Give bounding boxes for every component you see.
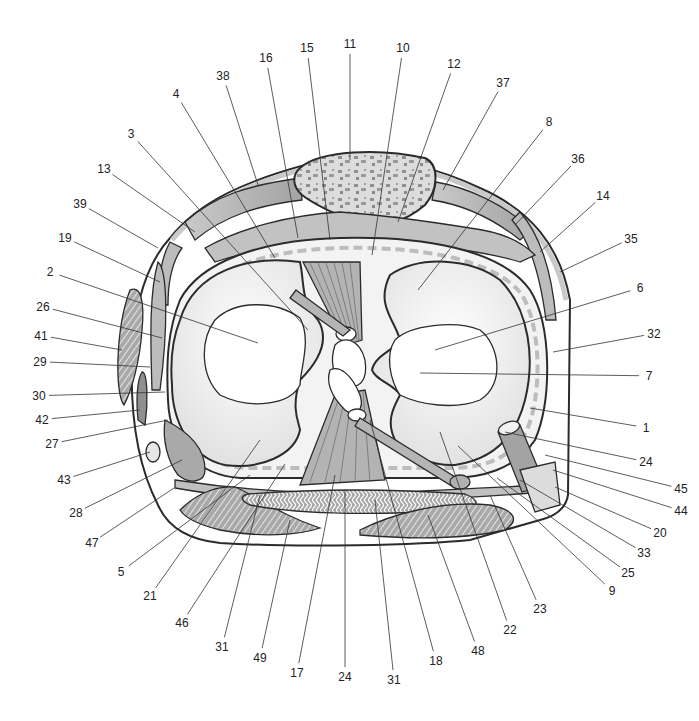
callout-label-11: 11 xyxy=(344,37,357,51)
leader-line-19 xyxy=(74,242,160,282)
leader-line-13 xyxy=(112,174,195,232)
callout-label-20: 20 xyxy=(653,526,667,540)
callout-label-4: 4 xyxy=(173,87,180,101)
callout-label-42: 42 xyxy=(35,413,49,427)
callout-label-9: 9 xyxy=(609,584,616,598)
callout-label-39: 39 xyxy=(73,197,87,211)
callout-label-49: 49 xyxy=(253,651,267,665)
callout-label-2: 2 xyxy=(47,265,54,279)
popliteal-vessel xyxy=(450,475,470,489)
callout-label-7: 7 xyxy=(646,369,653,383)
callout-label-44: 44 xyxy=(674,504,688,518)
leader-line-26 xyxy=(53,309,162,338)
leader-line-44 xyxy=(553,470,672,508)
leader-line-39 xyxy=(89,209,158,248)
callout-label-46: 46 xyxy=(175,616,189,630)
medial-condyle-inner xyxy=(390,325,497,406)
leader-line-41 xyxy=(51,337,122,350)
callout-label-24: 24 xyxy=(639,455,653,469)
callout-label-41: 41 xyxy=(34,329,48,343)
callout-label-17: 17 xyxy=(290,666,304,680)
lateral-oval-43 xyxy=(146,442,160,462)
leader-line-27 xyxy=(62,420,168,442)
callout-label-6: 6 xyxy=(637,281,644,295)
callout-label-22: 22 xyxy=(503,623,517,637)
leader-line-43 xyxy=(73,452,150,477)
callout-label-5: 5 xyxy=(118,565,125,579)
lateral-dark-strip xyxy=(137,372,147,425)
leader-line-37 xyxy=(443,92,498,190)
leader-line-14 xyxy=(540,202,595,252)
knee-cross-section-diagram: 1115101612383748336131439193526264132297… xyxy=(0,0,699,721)
callout-label-48: 48 xyxy=(471,644,485,658)
callout-label-43: 43 xyxy=(57,473,71,487)
callout-label-3: 3 xyxy=(128,127,135,141)
leader-line-28 xyxy=(85,460,182,508)
callout-label-25: 25 xyxy=(621,566,635,580)
leader-line-23 xyxy=(490,495,536,600)
leader-line-49 xyxy=(262,520,290,648)
callout-label-31: 31 xyxy=(215,640,229,654)
callout-label-37: 37 xyxy=(496,76,510,90)
callout-label-32: 32 xyxy=(647,327,661,341)
callout-label-1: 1 xyxy=(643,421,650,435)
leader-line-35 xyxy=(560,243,622,272)
callout-label-23: 23 xyxy=(533,602,547,616)
leader-line-36 xyxy=(515,166,571,225)
callout-label-30: 30 xyxy=(32,389,46,403)
leader-line-32 xyxy=(553,335,644,352)
leader-line-38 xyxy=(226,86,258,186)
callout-label-36: 36 xyxy=(571,152,585,166)
callout-label-12: 12 xyxy=(447,57,461,71)
callout-label-18: 18 xyxy=(429,654,443,668)
callout-label-24: 24 xyxy=(338,670,352,684)
lateral-condyle-inner xyxy=(204,305,305,404)
callout-label-31: 31 xyxy=(387,673,401,687)
callout-label-13: 13 xyxy=(97,162,111,176)
callout-label-15: 15 xyxy=(300,41,314,55)
callout-label-16: 16 xyxy=(259,51,273,65)
callout-label-28: 28 xyxy=(69,506,83,520)
callout-label-26: 26 xyxy=(36,300,50,314)
leader-line-15 xyxy=(308,58,330,240)
callout-label-19: 19 xyxy=(58,231,72,245)
callout-label-14: 14 xyxy=(596,189,610,203)
ligament-cut-lower xyxy=(348,409,366,421)
callout-label-38: 38 xyxy=(216,69,230,83)
leader-line-42 xyxy=(52,410,140,419)
callout-label-8: 8 xyxy=(546,115,553,129)
callout-label-21: 21 xyxy=(143,589,157,603)
callout-label-45: 45 xyxy=(674,482,688,496)
leader-line-16 xyxy=(268,68,298,238)
callout-label-27: 27 xyxy=(45,437,59,451)
callout-label-47: 47 xyxy=(85,536,99,550)
leader-line-20 xyxy=(555,487,651,529)
leader-line-1 xyxy=(530,408,636,426)
leader-line-33 xyxy=(520,480,636,548)
callout-label-29: 29 xyxy=(33,355,47,369)
callout-label-33: 33 xyxy=(637,546,651,560)
callout-label-10: 10 xyxy=(396,41,410,55)
callout-label-35: 35 xyxy=(624,232,638,246)
